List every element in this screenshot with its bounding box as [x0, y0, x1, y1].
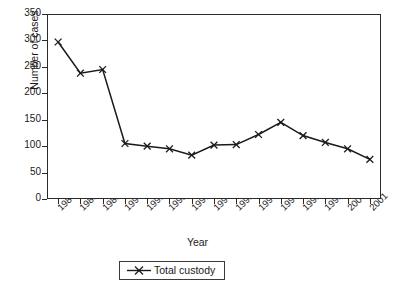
y-tick-label-100: 100	[11, 139, 41, 150]
x-marker-icon	[127, 265, 151, 276]
y-tick-label-200: 200	[11, 86, 41, 97]
line-chart: Number of cases 050100150200250300350 19…	[0, 0, 395, 288]
y-tick-label-0: 0	[11, 192, 41, 203]
y-tick-label-50: 50	[11, 166, 41, 177]
y-tick-label-250: 250	[11, 60, 41, 71]
y-tick-mark-0	[42, 199, 47, 200]
data-point-2001	[366, 156, 373, 163]
x-axis-title: Year	[0, 236, 395, 248]
legend-label-total-custody: Total custody	[154, 264, 215, 276]
legend: Total custody	[119, 261, 225, 280]
plot-inner	[48, 15, 380, 198]
data-point-1996	[255, 131, 262, 138]
y-tick-label-150: 150	[11, 113, 41, 124]
plot-area	[47, 14, 381, 199]
data-point-1997	[277, 119, 284, 126]
y-tick-label-350: 350	[11, 7, 41, 18]
series-total-custody	[48, 15, 380, 198]
data-point-1987	[55, 39, 62, 46]
y-tick-label-300: 300	[11, 33, 41, 44]
series-line	[58, 42, 370, 159]
